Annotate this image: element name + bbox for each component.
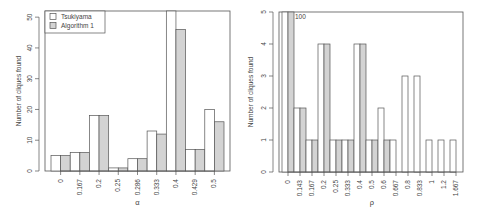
bar-tsukiyama — [70, 153, 80, 171]
bar-tsukiyama — [366, 140, 372, 172]
bar-tsukiyama — [294, 108, 300, 172]
x-tick-label: 1.2 — [440, 180, 447, 189]
x-tick-label: 0.5 — [368, 180, 375, 189]
y-tick-label: 2 — [260, 106, 267, 110]
bar-algorithm1 — [288, 12, 294, 172]
y-tick-label: 4 — [260, 42, 267, 46]
bar-algorithm1 — [324, 44, 330, 172]
x-tick-label: 0.2 — [95, 179, 102, 188]
bar-tsukiyama — [378, 108, 384, 172]
bar-algorithm1 — [214, 122, 224, 171]
bar-algorithm1 — [195, 149, 205, 171]
x-tick-label: 0 — [284, 180, 291, 184]
y-tick-label: 0 — [260, 170, 267, 174]
bar-tsukiyama — [147, 131, 157, 171]
x-tick-label: 0.25 — [114, 179, 121, 192]
x-tick-label: 0.6 — [380, 180, 387, 189]
x-tick-label: 0.143 — [296, 180, 303, 197]
y-axis-label: Number of cliques found — [15, 55, 23, 126]
x-tick-label: 0.333 — [153, 179, 160, 196]
left-chart: 00.1670.20.250.2860.3330.40.4290.5010203… — [0, 0, 240, 215]
y-tick-label: 0 — [26, 169, 33, 173]
bar-algorithm1 — [360, 44, 366, 172]
x-tick-label: 0.4 — [172, 179, 179, 188]
right-chart: 00.1430.1670.20.250.3330.40.50.60.6670.8… — [240, 0, 478, 215]
x-axis-label: α — [135, 198, 140, 207]
x-tick-label: 1 — [428, 180, 435, 184]
x-tick-label: 0.2 — [320, 180, 327, 189]
y-tick-label: 5 — [260, 10, 267, 14]
x-tick-label: 0.4 — [356, 180, 363, 189]
legend-label: Tsukiyama — [61, 13, 92, 21]
bar-algorithm1 — [336, 140, 342, 172]
x-tick-label: 0 — [57, 179, 64, 183]
y-tick-label: 30 — [26, 75, 33, 83]
x-tick-label: 0.667 — [392, 180, 399, 197]
x-tick-label: 0.5 — [210, 179, 217, 188]
legend-swatch — [50, 14, 56, 20]
bar-algorithm1 — [157, 134, 167, 171]
legend: TsukiyamaAlgorithm 1 — [45, 11, 105, 33]
bar-algorithm1 — [61, 156, 71, 171]
bar-tsukiyama — [426, 140, 432, 172]
bar-algorithm1 — [372, 140, 378, 172]
x-tick-label: 0.167 — [308, 180, 315, 197]
bar-tsukiyama — [438, 140, 444, 172]
y-tick-label: 40 — [26, 44, 33, 52]
bar-algorithm1 — [312, 140, 318, 172]
bar-tsukiyama — [109, 168, 119, 171]
y-tick-label: 50 — [26, 13, 33, 21]
x-tick-label: 0.167 — [76, 179, 83, 196]
x-tick-label: 0.286 — [134, 179, 141, 196]
bar-tsukiyama — [205, 109, 215, 171]
bar-tsukiyama — [354, 44, 360, 172]
bar-algorithm1 — [384, 140, 390, 172]
bar-tsukiyama — [51, 156, 61, 171]
x-tick-label: 0.429 — [191, 179, 198, 196]
bar-algorithm1 — [118, 168, 128, 171]
bar-tsukiyama — [414, 76, 420, 172]
bar-algorithm1 — [99, 116, 109, 171]
plot-frame — [45, 11, 230, 171]
x-axis-label: ρ — [370, 198, 374, 207]
x-tick-label: 0.8 — [404, 180, 411, 189]
bar-tsukiyama — [186, 149, 196, 171]
bar-tsukiyama — [89, 116, 99, 171]
y-tick-label: 1 — [260, 138, 267, 142]
x-tick-label: 0.333 — [344, 180, 351, 197]
bar-tsukiyama — [166, 11, 176, 171]
x-tick-label: 0.25 — [332, 180, 339, 193]
bar-tsukiyama — [450, 140, 456, 172]
y-tick-label: 3 — [260, 74, 267, 78]
x-tick-label: 1.667 — [452, 180, 459, 197]
bar-algorithm1 — [300, 108, 306, 172]
bar-algorithm1 — [176, 29, 186, 171]
bar-tsukiyama — [318, 44, 324, 172]
bar-annotation: 100 — [295, 13, 306, 20]
bar-algorithm1 — [80, 153, 90, 171]
legend-swatch — [50, 23, 56, 29]
bar-tsukiyama — [306, 140, 312, 172]
bar-tsukiyama — [282, 12, 288, 172]
bar-tsukiyama — [390, 140, 396, 172]
y-axis-label: Number of cliques found — [247, 56, 255, 127]
bar-tsukiyama — [402, 76, 408, 172]
bar-algorithm1 — [348, 140, 354, 172]
bar-tsukiyama — [342, 140, 348, 172]
y-tick-label: 20 — [26, 105, 33, 113]
bar-tsukiyama — [128, 159, 138, 171]
y-tick-label: 10 — [26, 136, 33, 144]
legend-label: Algorithm 1 — [61, 22, 94, 30]
bar-tsukiyama — [330, 140, 336, 172]
x-tick-label: 0.833 — [416, 180, 423, 197]
bar-algorithm1 — [138, 159, 148, 171]
